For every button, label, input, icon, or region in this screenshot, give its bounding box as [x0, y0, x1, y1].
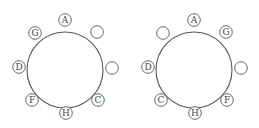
seat-label: D	[15, 62, 22, 72]
seat-top-left	[157, 27, 170, 40]
seat-label: H	[62, 108, 70, 118]
seat-circle	[235, 62, 248, 75]
seat-circle	[91, 26, 104, 39]
seat-top-right: G	[220, 26, 233, 39]
seat-top-right	[91, 26, 104, 39]
seat-bottom: H	[60, 107, 73, 120]
seat-label: F	[224, 95, 230, 105]
seat-bottom-left: C	[155, 94, 168, 107]
seat-top-left: G	[29, 27, 42, 40]
seat-label: G	[31, 28, 38, 38]
seat-circle	[157, 27, 170, 40]
seat-label: C	[95, 95, 102, 105]
seat-label: A	[190, 15, 198, 25]
seat-bottom-right: F	[221, 94, 234, 107]
seat-right	[106, 62, 119, 75]
seat-label: F	[29, 95, 35, 105]
seat-label: G	[222, 27, 229, 37]
seat-top: A	[188, 14, 201, 27]
seat-left: D	[142, 61, 155, 74]
round-table	[156, 32, 232, 108]
round-table	[27, 32, 103, 108]
seat-top: A	[59, 14, 72, 27]
seat-left: D	[13, 61, 26, 74]
seat-label: D	[144, 62, 151, 72]
seat-right	[235, 62, 248, 75]
left-arrangement: ACHFDG	[13, 14, 119, 120]
seat-bottom-right: C	[92, 94, 105, 107]
seat-bottom-left: F	[26, 94, 39, 107]
seat-label: H	[191, 108, 199, 118]
seat-label: C	[158, 95, 165, 105]
seating-diagrams: ACHFDGAGFHCD	[0, 0, 259, 128]
seat-label: A	[61, 15, 69, 25]
seat-bottom: H	[189, 107, 202, 120]
right-arrangement: AGFHCD	[142, 14, 248, 120]
seat-circle	[106, 62, 119, 75]
